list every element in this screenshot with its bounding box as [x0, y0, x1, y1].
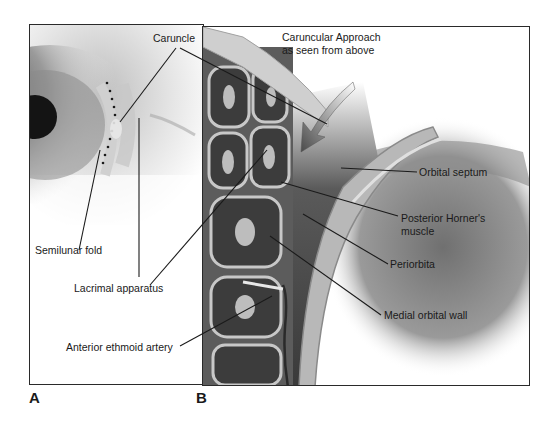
- panel-letter-a: A: [29, 389, 40, 406]
- label-lacrimal-apparatus: Lacrimal apparatus: [74, 282, 163, 294]
- label-semilunar-fold: Semilunar fold: [35, 244, 102, 256]
- label-periorbita: Periorbita: [390, 258, 435, 270]
- label-posterior-horners-muscle-line2: muscle: [401, 225, 434, 237]
- orbit-axial-illustration: [203, 27, 530, 386]
- label-anterior-ethmoid-artery: Anterior ethmoid artery: [66, 341, 173, 353]
- label-posterior-horners-muscle-line1: Posterior Horner's: [401, 212, 485, 224]
- panel-letter-b: B: [196, 389, 207, 406]
- panel-b-axial-illustration: [202, 26, 530, 386]
- panel-a-eye-photo: [29, 24, 204, 385]
- title-line-1: Caruncular Approach: [282, 31, 381, 43]
- label-caruncle: Caruncle: [153, 32, 195, 44]
- title-line-2: as seen from above: [282, 44, 374, 56]
- label-medial-orbital-wall: Medial orbital wall: [384, 309, 467, 321]
- label-orbital-septum: Orbital septum: [419, 166, 487, 178]
- eye-photo-illustration: [30, 25, 204, 385]
